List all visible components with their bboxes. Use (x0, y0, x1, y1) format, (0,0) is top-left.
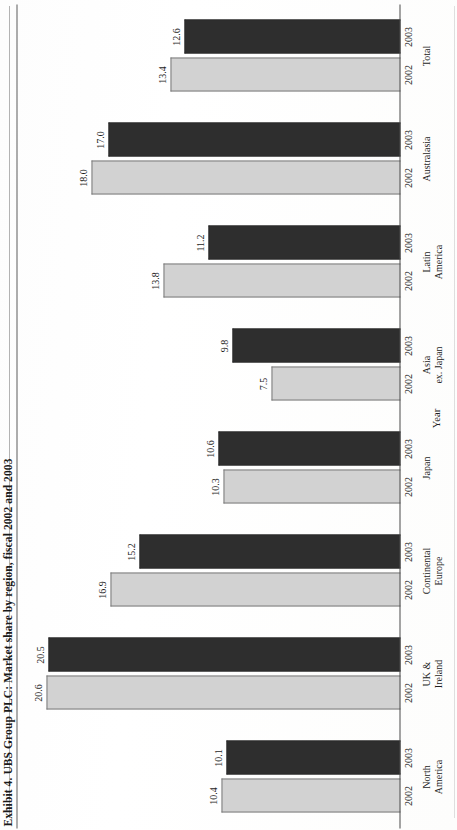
bar-value-label: 13.8 (149, 272, 160, 290)
bar-value-label: 17.0 (94, 131, 105, 149)
bar-2002: 13.4 (170, 58, 400, 92)
bar-2002: 10.4 (221, 779, 400, 813)
bar-value-label: 7.5 (257, 377, 268, 390)
bar-2002: 7.5 (271, 367, 400, 401)
bar-group: 16.915.2 (22, 519, 400, 622)
bar-value-label: 15.2 (125, 543, 136, 561)
tick-label-2003: 2003 (402, 20, 413, 54)
tick-label-2002: 2002 (402, 367, 413, 401)
bar-value-label: 13.4 (156, 66, 167, 84)
bar-group: 20.620.5 (22, 622, 400, 725)
tick-label-2003: 2003 (402, 123, 413, 157)
bar-value-label: 12.6 (170, 28, 181, 46)
rotated-chart-stage: Exhibit 4. UBS Group PLC: Market share b… (0, 0, 457, 830)
bar-2003: 11.2 (208, 226, 400, 260)
bar-rect (110, 573, 400, 607)
bar-group: 18.017.0 (22, 107, 400, 210)
bar-rect (163, 264, 400, 298)
tick-label-2002: 2002 (402, 676, 413, 710)
bar-value-label: 10.6 (204, 440, 215, 458)
bar-value-label: 9.8 (218, 339, 229, 352)
bar-value-label: 16.9 (96, 581, 107, 599)
plot-area: 10.410.120.620.516.915.210.310.67.59.813… (22, 4, 400, 828)
bar-value-label: 18.0 (77, 169, 88, 187)
bar-rect (226, 741, 400, 775)
bar-value-label: 10.1 (212, 749, 223, 767)
bar-rect (221, 779, 400, 813)
tick-label-2003: 2003 (402, 638, 413, 672)
tick-label-2003: 2003 (402, 741, 413, 775)
tick-label-2003: 2003 (402, 535, 413, 569)
bar-value-label: 10.3 (209, 478, 220, 496)
bar-2003: 10.6 (218, 432, 400, 466)
bar-2002: 16.9 (110, 573, 400, 607)
bar-group: 7.59.8 (22, 313, 400, 416)
tick-label-2002: 2002 (402, 58, 413, 92)
bar-value-label: 10.4 (207, 787, 218, 805)
x-axis-title: Year (430, 6, 441, 830)
bar-rect (108, 123, 400, 157)
tick-label-2003: 2003 (402, 432, 413, 466)
bar-group: 13.811.2 (22, 210, 400, 313)
bar-2003: 17.0 (108, 123, 400, 157)
bar-2002: 18.0 (91, 161, 400, 195)
bar-value-label: 20.5 (34, 646, 45, 664)
tick-label-2002: 2002 (402, 470, 413, 504)
bar-rect (223, 470, 400, 504)
bar-2002: 13.8 (163, 264, 400, 298)
bar-2003: 12.6 (184, 20, 400, 54)
tick-label-2003: 2003 (402, 226, 413, 260)
bar-group: 10.310.6 (22, 416, 400, 519)
chart-figure: Exhibit 4. UBS Group PLC: Market share b… (0, 0, 457, 830)
bar-2002: 10.3 (223, 470, 400, 504)
bar-rect (46, 676, 400, 710)
bar-rect (91, 161, 400, 195)
bar-rect (184, 20, 400, 54)
bar-2003: 15.2 (139, 535, 400, 569)
bar-rect (139, 535, 400, 569)
bar-group: 13.412.6 (22, 4, 400, 107)
bar-2002: 20.6 (46, 676, 400, 710)
bar-rect (48, 638, 400, 672)
bar-rect (170, 58, 400, 92)
bar-2003: 20.5 (48, 638, 400, 672)
bar-rect (208, 226, 400, 260)
bar-2003: 9.8 (232, 329, 400, 363)
figure-caption: Exhibit 4. UBS Group PLC: Market share b… (1, 6, 13, 826)
tick-label-2002: 2002 (402, 161, 413, 195)
bar-rect (232, 329, 400, 363)
tick-label-2002: 2002 (402, 779, 413, 813)
value-axis-baseline (399, 4, 400, 828)
caption-divider (16, 4, 17, 828)
tick-label-2002: 2002 (402, 573, 413, 607)
bar-value-label: 11.2 (194, 234, 205, 251)
bar-rect (271, 367, 400, 401)
bar-2003: 10.1 (226, 741, 400, 775)
bar-group: 10.410.1 (22, 725, 400, 828)
tick-label-2003: 2003 (402, 329, 413, 363)
bar-rect (218, 432, 400, 466)
tick-label-2002: 2002 (402, 264, 413, 298)
bar-value-label: 20.6 (32, 684, 43, 702)
